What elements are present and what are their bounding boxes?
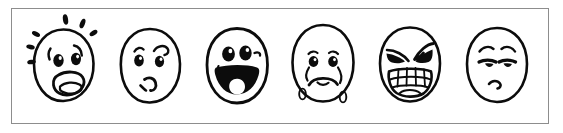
mouth-inner bbox=[318, 83, 329, 85]
eye-right bbox=[239, 46, 251, 61]
mouth-stroke-lower bbox=[140, 86, 146, 91]
eyebrow-left bbox=[49, 49, 51, 60]
face-confused: Confused / Skeptical bbox=[107, 9, 193, 123]
mouth-slight-frown bbox=[489, 81, 501, 89]
eye-right-droopy bbox=[499, 60, 516, 67]
lower-lip bbox=[400, 90, 420, 93]
eyelid-right bbox=[499, 60, 516, 62]
eyebrow-right bbox=[501, 47, 515, 52]
face-sad: Sad / Crying bbox=[280, 9, 366, 123]
eyebrow-right bbox=[329, 52, 338, 54]
tear-stream-right bbox=[338, 68, 341, 84]
cheek-curl bbox=[254, 52, 260, 55]
eye-right bbox=[329, 56, 339, 67]
eye-left bbox=[134, 55, 144, 67]
face-happy: Happy / Joyful bbox=[194, 9, 280, 123]
face-outline bbox=[293, 25, 354, 102]
eyebrow-left bbox=[479, 47, 493, 52]
face-scared: Scared / Frightened bbox=[20, 9, 106, 123]
eye-left-droopy bbox=[479, 60, 496, 67]
eyebrow-right-curl bbox=[154, 46, 168, 55]
tongue bbox=[229, 79, 245, 95]
eyebrow-left bbox=[134, 48, 143, 52]
mouth-crooked bbox=[144, 78, 155, 91]
tongue bbox=[60, 83, 82, 94]
eyebrow-left bbox=[309, 52, 318, 54]
face-outline bbox=[467, 28, 527, 102]
face-angry: Angry / Furious bbox=[367, 9, 453, 123]
emotion-faces-illustration: Scared / Frightened bbox=[0, 0, 563, 133]
faces-strip: Scared / Frightened bbox=[12, 9, 548, 123]
eye-right bbox=[155, 56, 164, 68]
eye-right bbox=[71, 53, 81, 65]
face-bored: Bored / Unimpressed bbox=[454, 9, 540, 123]
eyelid-left bbox=[479, 60, 496, 62]
tear-stream-left bbox=[307, 68, 310, 81]
eye-left bbox=[309, 56, 319, 67]
eye-left bbox=[53, 54, 63, 67]
eye-left bbox=[222, 46, 235, 61]
face-outline bbox=[34, 30, 94, 102]
